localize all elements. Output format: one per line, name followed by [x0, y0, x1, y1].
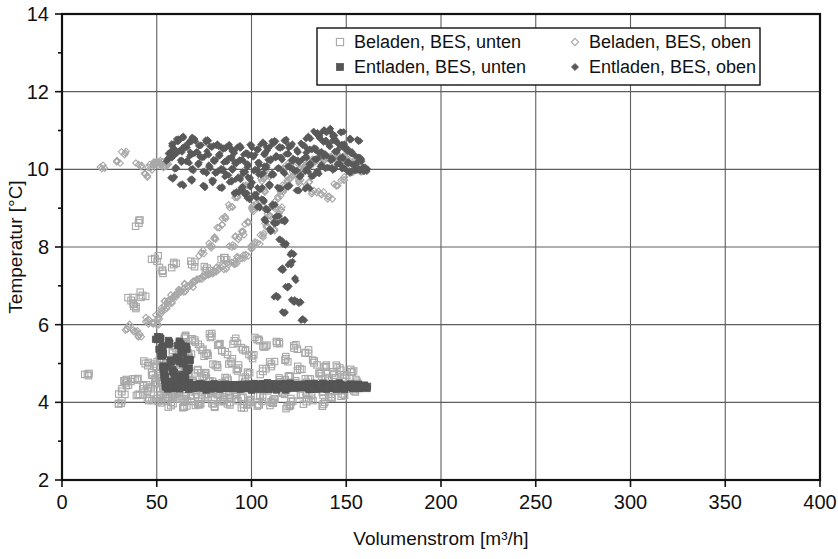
y-axis-title: Temperatur [°C]: [5, 180, 26, 313]
y-tick-label: 6: [38, 314, 49, 336]
data-point: [161, 370, 167, 376]
x-tick-label: 250: [519, 491, 552, 513]
legend-entry[interactable]: Beladen, BES, oben: [571, 32, 751, 52]
data-point: [166, 341, 172, 347]
legend-entry[interactable]: Beladen, BES, unten: [336, 32, 521, 52]
x-axis-tick-labels: 050100150200250300350400: [56, 491, 836, 513]
legend-entry[interactable]: Entladen, BES, oben: [571, 57, 756, 77]
y-tick-label: 12: [27, 81, 49, 103]
data-point: [264, 380, 270, 386]
x-tick-label: 50: [146, 491, 168, 513]
legend-label: Entladen, BES, unten: [354, 57, 526, 77]
x-tick-label: 400: [803, 491, 836, 513]
y-axis-tick-labels: 2468101214: [27, 3, 49, 491]
y-tick-label: 10: [27, 158, 49, 180]
x-tick-label: 0: [56, 491, 67, 513]
x-axis-title: Volumenstrom [m³/h]: [353, 528, 528, 549]
legend-label: Entladen, BES, oben: [589, 57, 756, 77]
data-point: [168, 357, 174, 363]
y-tick-label: 14: [27, 3, 49, 25]
data-point: [183, 366, 189, 372]
data-point: [364, 383, 370, 389]
data-point: [183, 343, 189, 349]
x-tick-label: 350: [709, 491, 742, 513]
chart-canvas: 050100150200250300350400 2468101214 Volu…: [0, 0, 838, 559]
data-point: [173, 374, 179, 380]
data-points-layer: [82, 125, 371, 412]
legend: Beladen, BES, untenBeladen, BES, obenEnt…: [317, 28, 760, 85]
x-tick-label: 100: [235, 491, 268, 513]
scatter-chart: 050100150200250300350400 2468101214 Volu…: [0, 0, 838, 559]
legend-entry[interactable]: Entladen, BES, unten: [336, 57, 526, 77]
data-point: [157, 336, 163, 342]
x-tick-label: 300: [614, 491, 647, 513]
data-point: [185, 356, 191, 362]
data-point: [175, 357, 181, 363]
data-point: [160, 351, 166, 357]
legend-square-marker-icon: [336, 63, 343, 70]
data-point: [342, 385, 348, 391]
y-tick-label: 8: [38, 236, 49, 258]
legend-label: Beladen, BES, unten: [354, 32, 521, 52]
x-tick-label: 150: [330, 491, 363, 513]
x-tick-label: 200: [424, 491, 457, 513]
y-tick-label: 2: [38, 469, 49, 491]
legend-label: Beladen, BES, oben: [589, 32, 751, 52]
y-tick-label: 4: [38, 391, 49, 413]
